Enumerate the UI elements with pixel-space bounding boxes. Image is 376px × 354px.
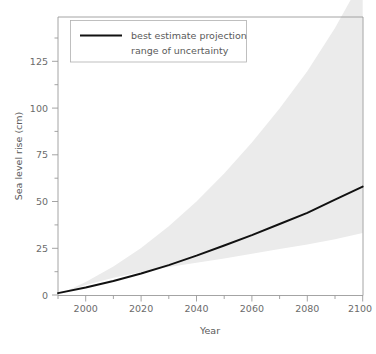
x-tick-label-2000: 2000 xyxy=(74,303,98,314)
x-tick-label-2100: 2100 xyxy=(348,303,372,314)
x-tick-label-2040: 2040 xyxy=(184,303,208,314)
figure-container: 0 25 50 75 100 125 2000 2020 2040 2060 xyxy=(0,0,376,354)
x-axis-title: Year xyxy=(199,325,220,336)
sea-level-rise-chart: 0 25 50 75 100 125 2000 2020 2040 2060 xyxy=(0,0,376,354)
chart-legend: best estimate projection range of uncert… xyxy=(71,21,247,63)
x-tick-label-2080: 2080 xyxy=(295,303,319,314)
legend-label-best-estimate-projection: best estimate projection xyxy=(131,30,247,41)
legend-label-range-of-uncertainty: range of uncertainty xyxy=(131,45,229,56)
y-tick-label-100: 100 xyxy=(30,103,48,114)
x-tick-label-2020: 2020 xyxy=(129,303,153,314)
x-tick-label-2060: 2060 xyxy=(240,303,264,314)
y-axis-title: Sea level rise (cm) xyxy=(13,112,24,201)
y-tick-label-125: 125 xyxy=(30,56,48,67)
y-tick-label-25: 25 xyxy=(36,243,48,254)
y-tick-label-50: 50 xyxy=(36,196,48,207)
y-tick-label-0: 0 xyxy=(42,290,48,301)
y-tick-label-75: 75 xyxy=(36,149,48,160)
caption-fragment xyxy=(0,346,376,354)
